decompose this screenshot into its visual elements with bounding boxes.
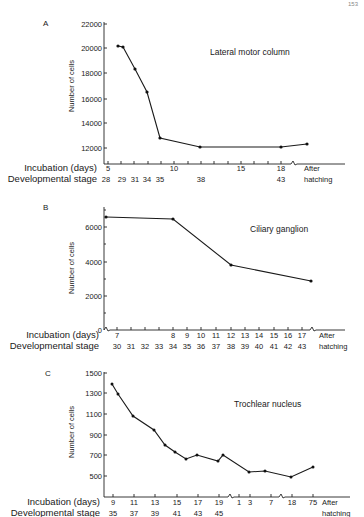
y-axis: 22000 20000 18000 16000 14000 12000	[81, 20, 107, 164]
x-tick-day: 1	[237, 498, 241, 507]
x-tick-stage: 43	[298, 342, 306, 351]
x-axis-row1-label: Incubation (days)	[27, 496, 100, 507]
x-axis: Incubation (days) Developmental stage 5 …	[8, 161, 345, 184]
x-tick-day: After	[304, 164, 320, 173]
x-tick-day: 11	[130, 498, 138, 507]
chart-b: B Ciliary ganglion Number of cells 6000 …	[10, 203, 348, 351]
x-axis-row2-label: Developmental stage	[8, 173, 97, 184]
y-axis-label: Number of cells	[67, 406, 76, 458]
x-tick-stage: hatching	[319, 342, 347, 351]
x-tick-day: 17	[298, 331, 306, 340]
y-tick: 12000	[81, 144, 102, 153]
x-tick-stage: 34	[143, 175, 151, 184]
x-tick-stage: hatching	[304, 175, 332, 184]
y-tick: 1500	[85, 369, 102, 378]
x-tick-day: 8	[171, 331, 175, 340]
x-tick-day: 17	[194, 498, 202, 507]
figure: 153 A Lateral motor column Number of cel…	[0, 0, 364, 517]
x-tick-day: 15	[270, 331, 278, 340]
x-tick-stage: 40	[255, 342, 263, 351]
panel-label: A	[43, 19, 49, 28]
x-tick-stage: 43	[194, 509, 202, 517]
x-tick-stage: 29	[118, 175, 126, 184]
chart-title: Lateral motor column	[210, 47, 290, 57]
x-tick-day: 19	[215, 498, 223, 507]
x-tick-stage: 31	[131, 175, 139, 184]
x-tick-stage: 43	[277, 175, 285, 184]
y-axis-label: Number of cells	[67, 60, 76, 112]
x-tick-stage: 32	[141, 342, 149, 351]
x-tick-day: After	[322, 498, 338, 507]
x-tick-stage: 39	[241, 342, 249, 351]
x-tick-stage: 36	[197, 342, 205, 351]
y-axis: 1500 1300 1100 900 700 500	[85, 369, 107, 497]
x-tick-day: 12	[227, 331, 235, 340]
y-tick: 20000	[81, 44, 102, 53]
x-tick-stage: 38	[197, 175, 205, 184]
x-tick-stage: 39	[151, 509, 159, 517]
x-axis-row2-label: Developmental stage	[10, 340, 99, 351]
x-tick-stage: 45	[215, 509, 223, 517]
x-tick-stage: 35	[109, 509, 117, 517]
x-tick-stage: 37	[212, 342, 220, 351]
chart-title: Ciliary ganglion	[250, 224, 308, 234]
x-tick-day: 11	[212, 331, 220, 340]
y-tick: 22000	[81, 20, 102, 29]
x-tick-stage: 41	[270, 342, 278, 351]
x-tick-day: 18	[277, 164, 285, 173]
x-axis: Incubation (days) Developmental stage 7 …	[10, 327, 348, 351]
x-tick-stage: 33	[155, 342, 163, 351]
x-tick-day: 15	[173, 498, 181, 507]
y-tick: 700	[89, 451, 102, 460]
x-tick-day: 10	[170, 164, 178, 173]
y-tick: 4000	[85, 258, 102, 267]
x-tick-stage: 38	[227, 342, 235, 351]
y-axis: 6000 4000 2000 0	[85, 207, 107, 335]
y-tick: 14000	[81, 119, 102, 128]
y-tick: 6000	[85, 223, 102, 232]
x-tick-stage: 30	[113, 342, 121, 351]
x-tick-stage: 34	[169, 342, 177, 351]
x-tick-day: 3	[248, 498, 252, 507]
x-axis-row2-label: Developmental stage	[11, 507, 100, 517]
x-tick-day: 15	[237, 164, 245, 173]
x-tick-day: 16	[284, 331, 292, 340]
x-tick-day: After	[319, 331, 335, 340]
x-tick-day: 7	[115, 331, 119, 340]
y-tick: 900	[89, 431, 102, 440]
x-tick-day: 13	[151, 498, 159, 507]
panel-label: B	[43, 203, 48, 212]
y-tick: 18000	[81, 69, 102, 78]
x-tick-day: 13	[241, 331, 249, 340]
x-axis-row1-label: Incubation (days)	[24, 162, 97, 173]
chart-title: Trochlear nucleus	[234, 399, 301, 409]
x-tick-stage: 37	[130, 509, 138, 517]
x-tick-day: 75	[309, 498, 317, 507]
x-tick-day: 7	[269, 498, 273, 507]
chart-a: A Lateral motor column Number of cells 2…	[8, 19, 345, 184]
x-tick-stage: 31	[127, 342, 135, 351]
chart-c: C Trochlear nucleus Number of cells 1500…	[11, 369, 351, 517]
x-tick-day: 5	[106, 164, 110, 173]
x-tick-stage: hatching	[322, 509, 350, 517]
data-series	[116, 44, 308, 148]
data-series	[111, 383, 315, 479]
x-tick-day: 10	[197, 331, 205, 340]
y-tick: 1100	[86, 410, 102, 419]
x-tick-day: 9	[111, 498, 115, 507]
y-tick: 500	[89, 472, 102, 481]
page-number: 153	[348, 1, 359, 7]
x-tick-stage: 28	[102, 175, 110, 184]
y-tick: 2000	[85, 292, 102, 301]
y-axis-label: Number of cells	[67, 242, 76, 294]
x-tick-day: 9	[185, 331, 189, 340]
x-tick-stage: 35	[183, 342, 191, 351]
x-tick-day: 14	[255, 331, 263, 340]
x-tick-stage: 35	[156, 175, 164, 184]
x-axis: Incubation (days) Developmental stage 9 …	[11, 494, 351, 517]
x-tick-stage: 42	[284, 342, 292, 351]
x-tick-day: 18	[288, 498, 296, 507]
x-tick-stage: 41	[173, 509, 181, 517]
panel-label: C	[45, 369, 51, 378]
x-axis-row1-label: Incubation (days)	[26, 329, 99, 340]
